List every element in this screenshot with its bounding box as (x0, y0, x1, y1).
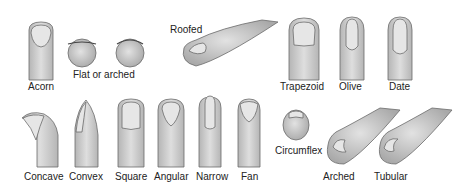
trapezoid-finger (289, 18, 319, 80)
angular-finger (158, 99, 184, 167)
label-narrow: Narrow (196, 172, 228, 182)
narrow-finger (199, 96, 221, 167)
label-trapezoid: Trapezoid (280, 82, 324, 92)
arched-nail-finger (116, 39, 144, 67)
label-concave: Concave (24, 172, 63, 182)
label-olive: Olive (339, 82, 362, 92)
flat-nail-finger (68, 39, 96, 67)
label-circumflex: Circumflex (275, 146, 322, 156)
label-flat-or-arched: Flat or arched (73, 70, 135, 80)
concave-finger (22, 113, 58, 167)
label-square: Square (115, 172, 147, 182)
label-angular: Angular (154, 172, 188, 182)
label-tubular: Tubular (374, 172, 408, 182)
label-fan: Fan (241, 172, 258, 182)
label-roofed: Roofed (170, 25, 202, 35)
label-convex: Convex (69, 172, 103, 182)
convex-finger (75, 100, 98, 167)
nail-shapes-diagram: Acorn Flat or arched Roofed Trapezoid Ol… (0, 0, 454, 191)
acorn-finger (29, 22, 53, 80)
date-finger (388, 17, 412, 80)
label-acorn: Acorn (28, 82, 54, 92)
olive-finger (340, 17, 364, 80)
label-date: Date (389, 82, 410, 92)
circumflex-finger (283, 110, 309, 140)
fan-finger (238, 99, 260, 167)
square-finger (118, 99, 144, 167)
nail-illustrations (0, 0, 454, 191)
label-arched: Arched (323, 172, 355, 182)
